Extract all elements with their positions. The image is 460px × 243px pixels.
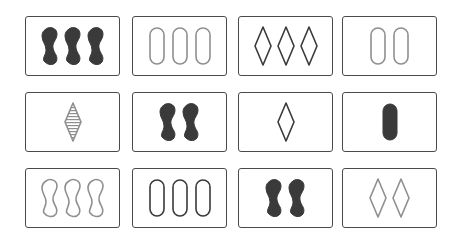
- set-card[interactable]: [132, 168, 227, 228]
- squiggle-icon: [86, 25, 106, 68]
- oval-icon: [147, 177, 167, 220]
- diamond-icon: [299, 25, 319, 68]
- squiggle-icon: [63, 25, 83, 68]
- diamond-icon: [391, 177, 411, 220]
- set-card[interactable]: [132, 92, 227, 152]
- set-card[interactable]: [342, 92, 437, 152]
- diamond-icon: [276, 25, 296, 68]
- squiggle-icon: [40, 177, 60, 220]
- set-card[interactable]: [238, 92, 333, 152]
- diamond-icon: [368, 177, 388, 220]
- oval-icon: [368, 25, 388, 68]
- oval-icon: [193, 177, 213, 220]
- squiggle-icon: [63, 177, 83, 220]
- diamond-icon: [63, 101, 83, 144]
- set-card[interactable]: [342, 168, 437, 228]
- squiggle-icon: [287, 177, 307, 220]
- set-card[interactable]: [342, 16, 437, 76]
- diamond-icon: [276, 101, 296, 144]
- set-card[interactable]: [25, 16, 120, 76]
- oval-icon: [170, 177, 190, 220]
- set-card[interactable]: [25, 92, 120, 152]
- oval-icon: [170, 25, 190, 68]
- squiggle-icon: [264, 177, 284, 220]
- set-card[interactable]: [132, 16, 227, 76]
- squiggle-icon: [86, 177, 106, 220]
- oval-icon: [193, 25, 213, 68]
- oval-icon: [380, 101, 400, 144]
- squiggle-icon: [158, 101, 178, 144]
- diamond-icon: [253, 25, 273, 68]
- oval-icon: [391, 25, 411, 68]
- oval-icon: [147, 25, 167, 68]
- set-card[interactable]: [238, 168, 333, 228]
- squiggle-icon: [181, 101, 201, 144]
- set-card[interactable]: [25, 168, 120, 228]
- set-card[interactable]: [238, 16, 333, 76]
- squiggle-icon: [40, 25, 60, 68]
